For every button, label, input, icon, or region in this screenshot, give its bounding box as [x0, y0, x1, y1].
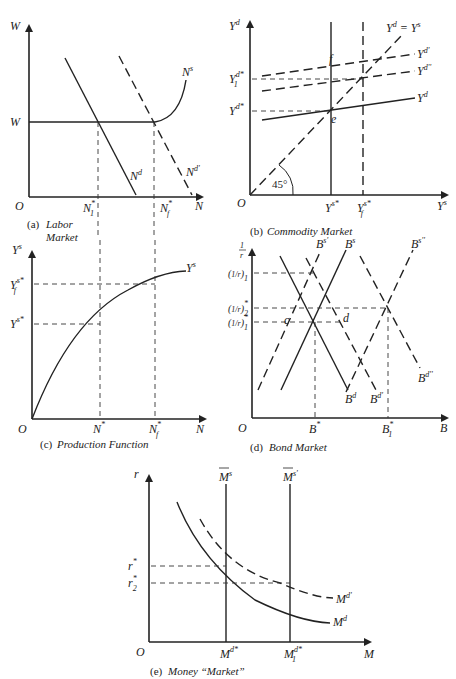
- svg-text:Bd'': Bd'': [418, 370, 433, 385]
- svg-text:Yd*1: Yd*1: [229, 70, 244, 89]
- svg-text:r: r: [134, 467, 139, 481]
- svg-text:N: N: [195, 422, 205, 436]
- svg-text:Bd': Bd': [370, 391, 383, 406]
- md-prime-curve: [200, 519, 333, 598]
- ns-curve: [155, 80, 186, 122]
- svg-text:O: O: [18, 422, 27, 436]
- svg-text:Commodity Market: Commodity Market: [267, 225, 353, 237]
- svg-text:Yd'': Yd'': [417, 63, 431, 78]
- svg-text:r: r: [240, 251, 244, 260]
- svg-text:c: c: [284, 313, 290, 327]
- svg-text:(d): (d): [250, 441, 263, 454]
- svg-text:1: 1: [240, 241, 244, 250]
- svg-text:O: O: [136, 645, 145, 659]
- svg-text:Ys*f: Ys*f: [10, 276, 24, 295]
- svg-text:N*f: N*f: [159, 199, 172, 218]
- svg-text:N*f: N*f: [148, 420, 161, 439]
- svg-text:B: B: [440, 421, 448, 435]
- svg-text:Bd: Bd: [345, 391, 357, 406]
- panel-labor-market: W W O N Ns Nd Nd' N*1 N*f (a) Labor Mark…: [10, 19, 204, 243]
- svg-text:O: O: [238, 421, 247, 435]
- svg-text:N: N: [194, 199, 204, 213]
- macro-diagram: W W O N Ns Nd Nd' N*1 N*f (a) Labor Mark…: [0, 0, 456, 679]
- svg-text:O: O: [15, 199, 24, 213]
- svg-text:Ys*: Ys*: [10, 315, 24, 331]
- svg-text:W: W: [10, 19, 21, 33]
- svg-text:Bs': Bs': [316, 236, 328, 251]
- svg-text:Md*: Md*: [219, 645, 238, 661]
- panel-production-function: Ys O N Ys Ys*f Ys* N* N*f (c) Production…: [10, 240, 205, 451]
- svg-text:B*: B*: [309, 420, 320, 436]
- svg-text:N*: N*: [92, 420, 105, 436]
- svg-text:Nd': Nd': [185, 164, 200, 179]
- svg-text:Md': Md': [335, 591, 352, 606]
- svg-text:Yd: Yd: [417, 90, 429, 105]
- svg-text:Ys*: Ys*: [325, 199, 339, 215]
- svg-text:r*2: r*2: [128, 574, 137, 593]
- svg-text:Ys: Ys: [186, 260, 196, 275]
- svg-text:(a): (a): [27, 218, 40, 231]
- svg-text:Yd': Yd': [417, 46, 430, 61]
- svg-text:45°: 45°: [272, 178, 287, 190]
- panel-commodity-market: Yd O Ys Yd = Ys 45° Yd' Yd'' Yd Yd*1 Yd*…: [229, 18, 447, 238]
- svg-text:O: O: [237, 196, 246, 210]
- svg-text:f: f: [329, 52, 334, 66]
- svg-text:Market: Market: [45, 231, 79, 243]
- svg-text:Ys: Ys: [437, 198, 447, 213]
- svg-text:Yd: Yd: [229, 18, 241, 33]
- svg-text:Yd*: Yd*: [229, 102, 244, 118]
- svg-text:Labor: Labor: [45, 218, 74, 230]
- svg-text:N*1: N*1: [82, 199, 95, 218]
- svg-text:Ys: Ys: [12, 242, 22, 257]
- panel-money-market: r O M Ms Ms' Md Md' r* r*2 Md* Md*1 (e) …: [128, 467, 375, 678]
- svg-text:r*: r*: [128, 557, 137, 573]
- svg-text:Md*1: Md*1: [283, 645, 302, 664]
- svg-text:Bs: Bs: [345, 236, 355, 251]
- ys-curve: [32, 271, 186, 419]
- svg-text:(c): (c): [40, 438, 53, 451]
- panel-bond-market: 1 r O B Bs' Bs Bs'' Bd Bd' Bd'' (1/r)1 (…: [228, 236, 448, 454]
- svg-text:Money “Market”: Money “Market”: [167, 665, 245, 677]
- svg-text:Md: Md: [332, 614, 348, 629]
- svg-text:Ms: Ms: [218, 469, 232, 484]
- svg-text:Yd = Ys: Yd = Ys: [386, 20, 421, 35]
- svg-text:e: e: [331, 112, 337, 126]
- svg-text:(1/r)1: (1/r)1: [228, 268, 248, 283]
- svg-text:Ys*f: Ys*f: [357, 199, 371, 218]
- svg-text:Ms': Ms': [282, 469, 298, 484]
- svg-text:Bond Market: Bond Market: [269, 441, 328, 453]
- svg-text:Bs'': Bs'': [411, 236, 425, 251]
- svg-text:(1/r)*1: (1/r)*1: [228, 313, 248, 332]
- svg-text:Production Function: Production Function: [56, 438, 149, 450]
- svg-text:Ns: Ns: [181, 64, 193, 79]
- svg-text:d: d: [343, 311, 350, 325]
- svg-text:(b): (b): [250, 225, 263, 238]
- svg-text:M: M: [363, 647, 375, 661]
- svg-text:W: W: [10, 115, 21, 129]
- nd-curve: [65, 58, 136, 195]
- svg-text:(e): (e): [150, 665, 163, 678]
- svg-text:B*1: B*1: [382, 420, 393, 439]
- svg-text:Nd: Nd: [129, 168, 143, 183]
